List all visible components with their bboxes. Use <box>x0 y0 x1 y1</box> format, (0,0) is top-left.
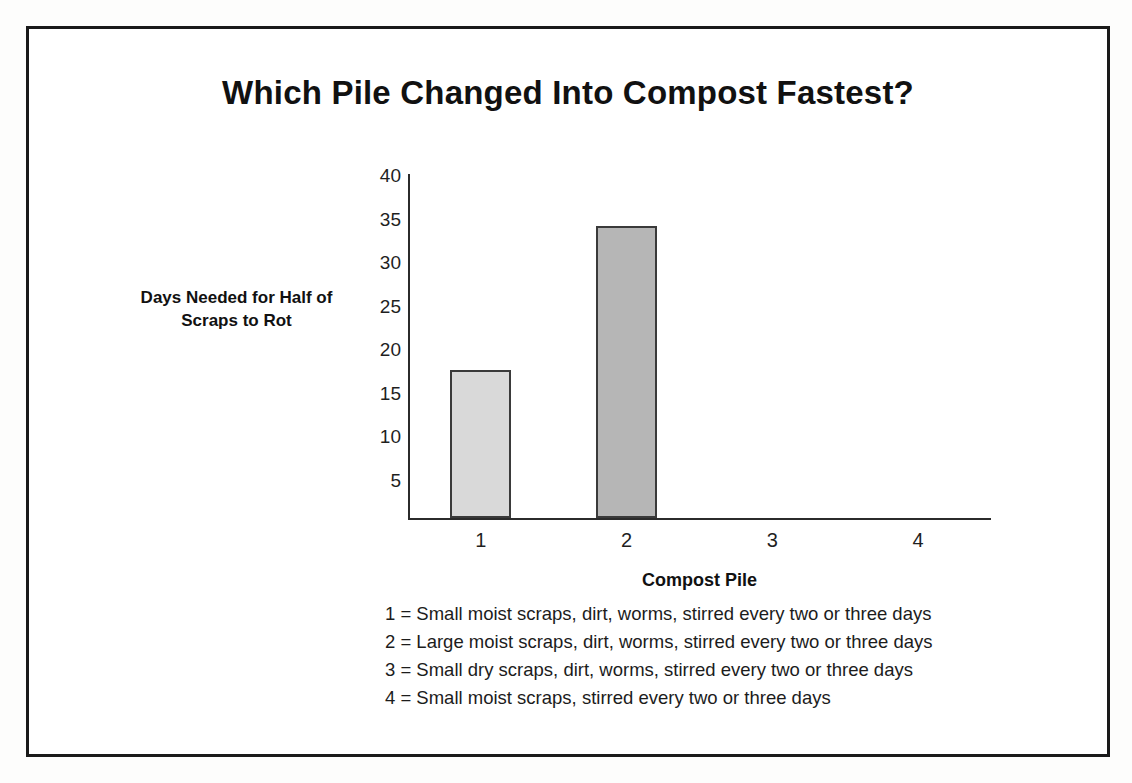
y-axis-title: Days Needed for Half of Scraps to Rot <box>124 287 349 333</box>
y-axis-title-line-2: Scraps to Rot <box>124 310 349 333</box>
x-axis-title: Compost Pile <box>408 570 991 591</box>
x-tick-label-3: 3 <box>712 529 832 552</box>
y-axis-title-line-1: Days Needed for Half of <box>124 287 349 310</box>
y-tick-label: 10 <box>357 427 401 446</box>
x-tick-label-4: 4 <box>858 529 978 552</box>
legend-line-1: 1 = Small moist scraps, dirt, worms, sti… <box>385 600 1065 628</box>
y-tick-label: 5 <box>357 471 401 490</box>
chart-frame: Which Pile Changed Into Compost Fastest?… <box>26 26 1110 757</box>
y-tick-label: 25 <box>357 297 401 316</box>
y-tick-label: 30 <box>357 253 401 272</box>
bar-pile-2 <box>596 226 657 518</box>
bar-pile-1 <box>450 370 511 518</box>
legend-line-4: 4 = Small moist scraps, stirred every tw… <box>385 684 1065 712</box>
legend-line-3: 3 = Small dry scraps, dirt, worms, stirr… <box>385 656 1065 684</box>
plot-area: 40 35 30 25 20 15 10 5 Days Needed for H… <box>29 29 1113 760</box>
y-tick-label: 40 <box>357 166 401 185</box>
y-tick-label: 15 <box>357 384 401 403</box>
x-tick-label-1: 1 <box>421 529 541 552</box>
legend-key: 1 = Small moist scraps, dirt, worms, sti… <box>385 600 1065 712</box>
legend-line-2: 2 = Large moist scraps, dirt, worms, sti… <box>385 628 1065 656</box>
y-tick-label: 20 <box>357 340 401 359</box>
page-root: Which Pile Changed Into Compost Fastest?… <box>0 0 1132 783</box>
x-tick-label-2: 2 <box>567 529 687 552</box>
y-tick-label: 35 <box>357 210 401 229</box>
